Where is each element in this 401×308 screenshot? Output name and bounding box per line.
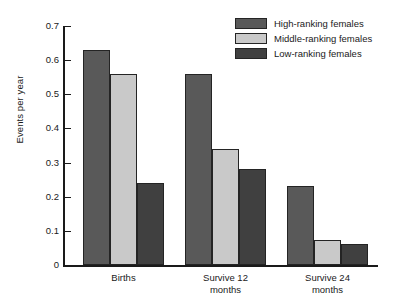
y-axis-tick-label: 0.3 [29, 158, 59, 168]
bar [83, 50, 110, 265]
plot-area: BirthsSurvive 12 monthsSurvive 24 months [63, 26, 378, 266]
legend-label: Middle-ranking females [274, 33, 372, 44]
x-axis-category-label: Births [74, 272, 174, 284]
bar [341, 244, 368, 265]
bar [287, 186, 314, 265]
y-axis-tick-label: 0.2 [29, 192, 59, 202]
y-axis-tick [65, 94, 71, 95]
bar [110, 74, 137, 265]
legend-swatch [235, 48, 267, 59]
y-axis-title: Events per year [14, 55, 25, 165]
bar [314, 240, 341, 265]
legend-swatch [235, 33, 267, 44]
y-axis-tick-label: 0.7 [29, 21, 59, 31]
bar-chart-figure: Events per year 0.70.60.50.40.30.20.10 B… [0, 0, 401, 308]
bar [137, 183, 164, 265]
legend: High-ranking femalesMiddle-ranking femal… [235, 17, 372, 59]
x-axis-category-label: Survive 12 months [176, 272, 276, 295]
legend-item: Low-ranking females [235, 47, 372, 59]
y-axis-tick-label: 0.1 [29, 226, 59, 236]
legend-item: High-ranking females [235, 17, 372, 29]
legend-label: Low-ranking females [274, 48, 362, 59]
y-axis-tick [65, 163, 71, 164]
y-axis-tick-label: 0 [29, 260, 59, 270]
y-axis-tick-label: 0.5 [29, 89, 59, 99]
y-axis-tick [65, 231, 71, 232]
y-axis-tick-label: 0.4 [29, 123, 59, 133]
legend-swatch [235, 18, 267, 29]
x-axis-category-label: Survive 24 months [278, 272, 378, 295]
y-axis-tick-label: 0.6 [29, 55, 59, 65]
y-axis-tick [65, 128, 71, 129]
x-axis-line [63, 265, 378, 267]
bar [185, 74, 212, 265]
y-axis-tick [65, 60, 71, 61]
bar [239, 169, 266, 265]
y-axis-tick [65, 197, 71, 198]
legend-item: Middle-ranking females [235, 32, 372, 44]
legend-label: High-ranking females [274, 18, 364, 29]
bar [212, 149, 239, 265]
y-axis-tick [65, 26, 71, 27]
